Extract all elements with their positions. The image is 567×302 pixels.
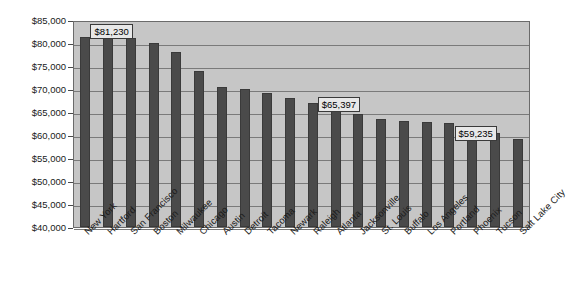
y-axis-tick-label: $50,000: [0, 176, 73, 188]
bar-slot: [188, 22, 211, 227]
y-axis-tick-label: $45,000: [0, 199, 73, 211]
bar-slot: [415, 22, 438, 227]
bar-slot: [233, 22, 256, 227]
bar[interactable]: [171, 52, 181, 227]
bar-slot: [484, 22, 507, 227]
bar-slot: [74, 22, 97, 227]
bar-slot: [279, 22, 302, 227]
y-axis-tick-label: $85,000: [0, 15, 73, 27]
bar-slot: [302, 22, 325, 227]
y-axis-tick-label: $55,000: [0, 153, 73, 165]
y-axis-tick-label: $75,000: [0, 61, 73, 73]
bar-slot: [211, 22, 234, 227]
bar-slot: [97, 22, 120, 227]
y-axis-tick-label: $40,000: [0, 222, 73, 234]
data-label-callout: $81,230: [90, 24, 132, 39]
data-label-callout: $59,235: [455, 126, 497, 141]
bar[interactable]: [262, 93, 272, 227]
y-axis: $85,000$80,000$75,000$70,000$65,000$60,0…: [0, 0, 73, 250]
bar[interactable]: [240, 89, 250, 227]
bar-slot: [347, 22, 370, 227]
bar-slot: [324, 22, 347, 227]
bar[interactable]: [126, 38, 136, 227]
y-axis-tick-label: $60,000: [0, 130, 73, 142]
data-label-callout: $65,397: [318, 97, 360, 112]
bar-slot: [256, 22, 279, 227]
bar-slot: [120, 22, 143, 227]
x-axis: New YorkHartfordSan FranciscoBostonMilwa…: [73, 229, 530, 302]
y-axis-tick-label: $80,000: [0, 38, 73, 50]
y-axis-tick-label: $70,000: [0, 84, 73, 96]
bar-slot: [506, 22, 529, 227]
bar[interactable]: [103, 37, 113, 227]
bar[interactable]: [80, 37, 90, 227]
y-axis-tick-label: $65,000: [0, 107, 73, 119]
